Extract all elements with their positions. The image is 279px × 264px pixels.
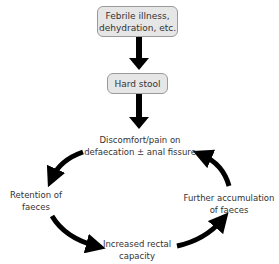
node-hard-stool-label: Hard stool	[108, 78, 167, 90]
node-febrile-line1: Febrile illness,	[98, 10, 177, 22]
node-accumulation-line2: of faeces	[181, 204, 277, 216]
node-discomfort-line2: defaecation ± anal fissure	[79, 146, 201, 158]
arrow-retention-to-rectal	[52, 216, 96, 246]
flow-arrows	[0, 0, 279, 264]
node-febrile-line2: dehydration, etc.	[98, 22, 177, 34]
node-retention-line1: Retention of	[6, 189, 66, 201]
arrow-rectal-to-accumulation	[177, 220, 222, 246]
node-hard-stool: Hard stool	[107, 73, 168, 94]
node-accumulation: Further accumulation of faeces	[181, 192, 277, 216]
node-retention-line2: faeces	[6, 201, 66, 213]
node-rectal-capacity: Increased rectal capacity	[100, 238, 174, 262]
node-discomfort: Discomfort/pain on defaecation ± anal fi…	[79, 134, 201, 158]
node-discomfort-line1: Discomfort/pain on	[79, 134, 201, 146]
arrow-hardstool-to-discomfort	[129, 94, 149, 129]
node-rectal-line1: Increased rectal	[100, 238, 174, 250]
arrow-febrile-to-hardstool	[129, 37, 149, 70]
node-rectal-line2: capacity	[100, 250, 174, 262]
node-accumulation-line1: Further accumulation	[181, 192, 277, 204]
node-retention: Retention of faeces	[6, 189, 66, 213]
node-febrile-illness: Febrile illness, dehydration, etc.	[97, 6, 178, 37]
arrow-accumulation-to-discomfort	[202, 155, 229, 186]
